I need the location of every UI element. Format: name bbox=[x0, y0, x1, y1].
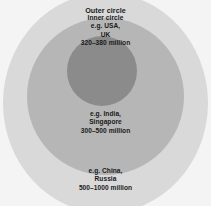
inner-circle-text-label: Inner circle e.g. USA, UK 320–380 millio… bbox=[0, 14, 211, 48]
outer-circle-text-label: e.g. China, Russia 500–1000 million bbox=[0, 167, 211, 192]
concentric-circle-diagram: Outer circle Inner circle e.g. USA, UK 3… bbox=[0, 0, 211, 206]
middle-circle-text-label: e.g. India, Singapore 300–500 million bbox=[0, 110, 211, 135]
